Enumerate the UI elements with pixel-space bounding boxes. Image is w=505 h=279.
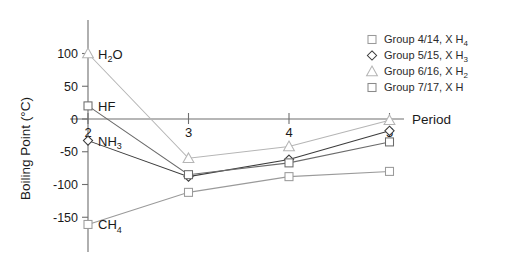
legend-item[interactable]: Group 4/14, X H4 bbox=[368, 33, 469, 48]
y-tick-label: -50 bbox=[60, 145, 78, 159]
y-tick-label: -150 bbox=[53, 211, 78, 225]
annotation-label: NH3 bbox=[98, 134, 122, 152]
square-marker bbox=[386, 167, 394, 175]
annotation-label: CH4 bbox=[98, 217, 122, 235]
square-marker bbox=[285, 159, 293, 167]
x-axis-title: Period bbox=[412, 112, 451, 127]
series-line bbox=[88, 54, 390, 159]
y-tick-label: 100 bbox=[57, 47, 78, 61]
square-marker bbox=[84, 220, 92, 228]
boiling-point-chart: 100500-50-100-1502345PeriodBoiling Point… bbox=[0, 0, 505, 279]
y-tick-label: 50 bbox=[64, 80, 78, 94]
square-marker bbox=[185, 171, 193, 179]
legend-item[interactable]: Group 7/17, X H bbox=[368, 81, 464, 93]
series-line bbox=[88, 106, 390, 175]
triangle-marker bbox=[367, 66, 378, 76]
square-marker bbox=[84, 102, 92, 110]
triangle-marker bbox=[83, 48, 94, 58]
x-tick-label: 4 bbox=[285, 125, 292, 140]
x-tick-label: 3 bbox=[185, 125, 192, 140]
triangle-marker bbox=[384, 115, 395, 125]
legend-item[interactable]: Group 6/16, X H2 bbox=[367, 65, 469, 80]
legend-label: Group 4/14, X H4 bbox=[384, 33, 469, 48]
point-annotations: H2OHFNH3CH4 bbox=[98, 47, 123, 235]
square-marker bbox=[386, 138, 394, 146]
diamond-marker bbox=[367, 51, 376, 60]
legend-item[interactable]: Group 5/15, X H3 bbox=[367, 49, 468, 64]
series-3 bbox=[83, 48, 395, 162]
annotation-label: H2O bbox=[98, 47, 123, 65]
legend: Group 4/14, X H4Group 5/15, X H3Group 6/… bbox=[367, 33, 469, 93]
y-tick-label: 0 bbox=[71, 113, 78, 127]
square-marker bbox=[368, 84, 376, 92]
chart-svg: 100500-50-100-1502345PeriodBoiling Point… bbox=[0, 0, 505, 279]
y-axis-title: Boiling Point (°C) bbox=[18, 97, 33, 200]
series-line bbox=[88, 171, 390, 224]
square-marker bbox=[185, 188, 193, 196]
series-1 bbox=[84, 167, 394, 228]
y-tick-label: -100 bbox=[53, 178, 78, 192]
square-marker bbox=[368, 36, 376, 44]
legend-label: Group 7/17, X H bbox=[384, 81, 464, 93]
annotation-label: HF bbox=[98, 99, 115, 114]
legend-label: Group 5/15, X H3 bbox=[384, 49, 469, 64]
series-4 bbox=[84, 102, 394, 179]
series-line bbox=[88, 131, 390, 177]
square-marker bbox=[285, 173, 293, 181]
legend-label: Group 6/16, X H2 bbox=[384, 65, 469, 80]
